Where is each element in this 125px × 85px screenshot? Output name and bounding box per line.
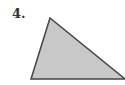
triangle-shape bbox=[31, 18, 125, 79]
triangle-figure bbox=[0, 0, 125, 85]
